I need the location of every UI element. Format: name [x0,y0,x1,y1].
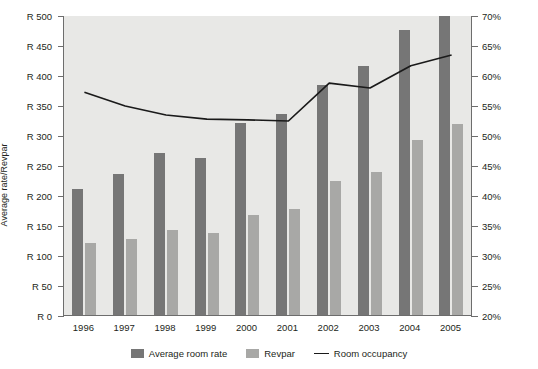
y-axis-tick [58,196,64,197]
y-axis-tick-label: R 350 [27,101,52,112]
y2-axis-tick-label: 35% [482,221,501,232]
x-axis-tick-label: 1996 [60,322,106,333]
room-occupancy-line [84,55,451,121]
y2-axis-tick-label: 60% [482,71,501,82]
x-axis-tick-label: 1999 [183,322,229,333]
x-axis-tick-label: 2000 [224,322,270,333]
y-axis-tick [58,316,64,317]
y-axis-title: Average rate/Revpar [0,143,9,226]
y-axis-tick [58,76,64,77]
y2-axis-tick [472,226,478,227]
y-axis-tick-label: R 0 [37,311,52,322]
y-axis-tick [58,256,64,257]
y2-axis-tick [472,16,478,17]
x-axis-tick-label: 2004 [387,322,433,333]
y2-axis-tick-label: 30% [482,251,501,262]
legend-line-swatch-icon [314,353,329,354]
x-axis-tick-label: 2005 [428,322,474,333]
x-axis-tick-label: 2002 [305,322,351,333]
y2-axis-tick-label: 70% [482,11,501,22]
x-axis-tick-label: 1997 [101,322,147,333]
legend-item[interactable]: Average room rate [131,348,228,359]
y2-axis-tick [472,316,478,317]
x-axis-tick-label: 1998 [142,322,188,333]
plot-inner [64,16,471,315]
y2-axis-tick-label: 50% [482,131,501,142]
y-axis-tick [58,106,64,107]
y2-axis-tick [472,286,478,287]
room-occupancy-line-chart [64,16,472,316]
legend-item-label: Revpar [264,348,295,359]
legend-item[interactable]: Revpar [246,348,295,359]
y2-axis-tick [472,106,478,107]
y2-axis-tick-label: 45% [482,161,501,172]
chart-legend: Average room rateRevparRoom occupancy [0,348,538,359]
y2-axis-tick-label: 40% [482,191,501,202]
legend-item-label: Room occupancy [334,348,407,359]
legend-item-label: Average room rate [149,348,228,359]
y2-axis-tick [472,196,478,197]
y-axis-tick [58,16,64,17]
legend-color-swatch-icon [246,349,259,358]
y-axis-tick-label: R 500 [27,11,52,22]
y-axis-tick [58,136,64,137]
y-axis-tick [58,286,64,287]
y2-axis-tick [472,46,478,47]
y2-axis-tick [472,76,478,77]
y-axis-tick-label: R 50 [32,281,52,292]
x-axis-tick-label: 2001 [264,322,310,333]
y-axis-tick [58,46,64,47]
y2-axis-tick [472,256,478,257]
y2-axis-tick-label: 20% [482,311,501,322]
y-axis-tick-label: R 450 [27,41,52,52]
y-axis-tick-label: R 100 [27,251,52,262]
plot-area [63,16,471,316]
legend-item[interactable]: Room occupancy [314,348,407,359]
y-axis-tick-label: R 200 [27,191,52,202]
y-axis-tick [58,166,64,167]
x-axis-tick-label: 2003 [346,322,392,333]
y2-axis-tick [472,166,478,167]
y2-axis-tick [472,136,478,137]
y-axis-tick-label: R 400 [27,71,52,82]
y-axis-tick-label: R 150 [27,221,52,232]
legend-color-swatch-icon [131,349,144,358]
y2-axis-tick-label: 25% [482,281,501,292]
y2-axis-tick-label: 55% [482,101,501,112]
y2-axis-tick-label: 65% [482,41,501,52]
y-axis-tick-label: R 250 [27,161,52,172]
chart-container: Average rate/Revpar Room occupancy Avera… [0,0,538,369]
y-axis-tick-label: R 300 [27,131,52,142]
y-axis-tick [58,226,64,227]
